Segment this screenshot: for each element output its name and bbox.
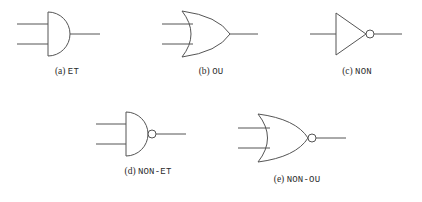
or-body-back-arc [182,11,191,57]
caption-index-or: (b) [199,66,210,76]
nand-inversion-bubble [148,130,156,138]
caption-nand: (d) NON-ET [78,166,218,177]
nand-body-arc [126,112,148,156]
caption-name-nand: NON-ET [138,167,172,177]
and-body-arc [48,12,70,56]
gate-figure-nand: (d) NON-ET [78,104,218,164]
nand-gate-symbol [78,104,218,164]
caption-not: (c) NON [292,66,422,77]
caption-nor: (e) NON-OU [222,174,372,185]
logic-gate-figure-sheet: (a) ET (b) OU [0,0,422,202]
not-inversion-bubble [366,30,374,38]
caption-index-and: (a) [55,66,66,76]
and-gate-symbol [2,4,132,64]
not-body-triangle [336,13,366,55]
or-gate-symbol [146,4,276,64]
gate-figure-and: (a) ET [2,4,132,64]
nor-gate-symbol [222,104,372,172]
caption-name-or: OU [212,67,223,77]
gate-figure-not: (c) NON [292,4,422,64]
gate-figure-nor: (e) NON-OU [222,104,372,172]
nor-body-back-arc [258,114,268,162]
caption-name-and: ET [68,67,79,77]
nor-inversion-bubble [308,134,316,142]
caption-or: (b) OU [146,66,276,77]
caption-index-not: (c) [342,66,353,76]
caption-name-not: NON [355,67,372,77]
caption-name-nor: NON-OU [287,175,321,185]
caption-and: (a) ET [2,66,132,77]
caption-index-nand: (d) [124,166,135,176]
gate-figure-or: (b) OU [146,4,276,64]
not-gate-symbol [292,4,422,64]
caption-index-nor: (e) [274,174,285,184]
